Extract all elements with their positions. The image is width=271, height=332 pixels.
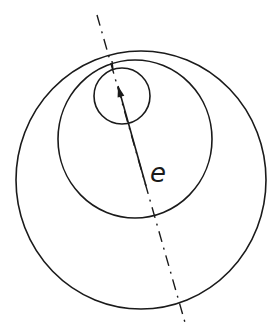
eccentricity-label: e <box>150 160 166 186</box>
eccentric-circles-diagram <box>0 0 271 332</box>
middle-circle <box>58 60 212 218</box>
tangent-tick <box>112 61 113 70</box>
eccentricity-arrow <box>118 86 146 186</box>
arrowhead-icon <box>118 86 125 98</box>
outer-circle <box>16 51 266 309</box>
